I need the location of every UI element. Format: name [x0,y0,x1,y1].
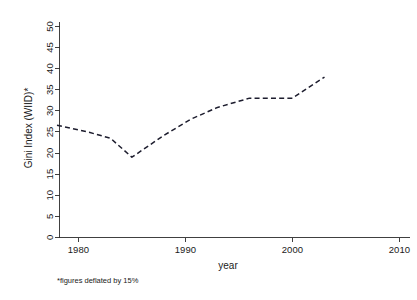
chart-figure: 50 45 40 35 30 25 20 15 10 5 0 Gini Inde… [0,0,417,300]
y-tick-label: 20 [44,148,55,159]
y-tick-label: 5 [44,214,55,219]
line-chart-canvas: 50 45 40 35 30 25 20 15 10 5 0 Gini Inde… [0,0,417,300]
y-tick-label: 35 [44,84,55,95]
plot-background [60,20,410,237]
y-tick-label: 40 [44,63,55,74]
y-tick-label: 30 [44,106,55,117]
x-tick-label: 1990 [175,244,196,255]
chart-footnote: *figures deflated by 15% [57,276,139,285]
y-tick-label: 25 [44,127,55,138]
y-axis-ticks [55,26,60,237]
y-tick-label: 50 [44,21,55,32]
x-tick-label: 2000 [282,244,303,255]
y-tick-label: 15 [44,169,55,180]
y-tick-label: 45 [44,42,55,53]
x-tick-label: 1980 [68,244,89,255]
y-axis-title: Gini Index (WIID)* [23,88,34,169]
x-tick-label: 2010 [389,244,410,255]
y-tick-label: 10 [44,190,55,201]
x-axis-tick-labels: 1980 1990 2000 2010 [68,244,410,255]
y-tick-label: 0 [44,235,55,240]
y-axis-tick-labels: 50 45 40 35 30 25 20 15 10 5 0 [44,21,55,240]
x-axis-ticks [78,238,399,243]
x-axis-title: year [218,260,238,271]
